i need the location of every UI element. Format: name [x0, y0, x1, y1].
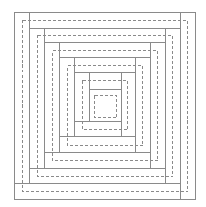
seam-lines — [23, 21, 188, 192]
seam-line-rect — [68, 66, 143, 146]
seam-line-rect — [38, 36, 173, 177]
seam-line-rect — [95, 96, 117, 118]
seam-line-rect — [23, 21, 188, 192]
outer-frame — [15, 13, 196, 200]
log-cabin-diagram — [0, 0, 206, 207]
log-boundaries — [15, 13, 181, 200]
seam-line-rect — [53, 51, 158, 161]
